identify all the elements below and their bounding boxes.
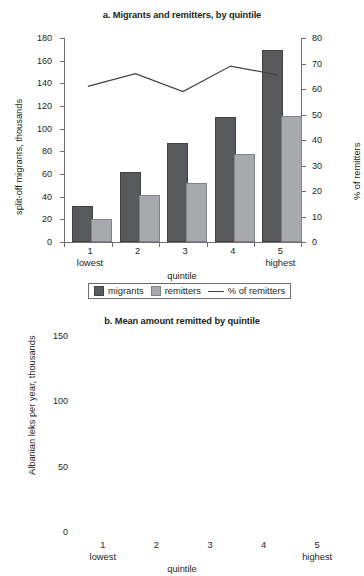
legend-label-migrants: migrants [108, 286, 144, 296]
panel-b-x-axis-label: quintile [0, 564, 364, 574]
panel-b-xcat-5: 5 [290, 540, 344, 550]
panel-a-ytick-180: 180 [22, 34, 52, 43]
bar-migrants-q2 [120, 172, 141, 242]
panel-a-tick-l-40 [60, 197, 64, 198]
bar-migrants-q4 [215, 117, 236, 243]
panel-a-tick-l-140 [60, 83, 64, 84]
panel-b-y-axis-label: Albanian leks per year, thousands [27, 335, 37, 475]
panel-a-ytick-80: 80 [22, 147, 52, 156]
panel-a-ytick-right-40: 40 [312, 136, 336, 145]
panel-a-ytick-right-70: 70 [312, 60, 336, 69]
panel-b-ytick-150: 150 [38, 332, 68, 341]
panel-a-tick-r-30 [302, 166, 306, 167]
legend-swatch-line-icon [208, 291, 224, 292]
panel-a-ytick-right-0: 0 [312, 238, 336, 247]
panel-a-tick-l-20 [60, 219, 64, 220]
panel-b-xcat-3: 3 [183, 540, 237, 550]
panel-a-title: a. Migrants and remitters, by quintile [0, 10, 364, 20]
panel-a-xcat-lowest: lowest [66, 258, 114, 268]
legend-swatch-migrants-icon [94, 286, 104, 296]
panel-a-legend: migrants remitters % of remitters [88, 283, 291, 299]
panel-b-xcat-lowest: lowest [76, 552, 130, 562]
legend-item-pct-remitters: % of remitters [208, 286, 285, 296]
legend-item-migrants: migrants [94, 286, 144, 296]
panel-b-ytick-100: 100 [38, 397, 68, 406]
panel-a-ytick-160: 160 [22, 57, 52, 66]
panel-b-title: b. Mean amount remitted by quintile [0, 316, 364, 326]
bar-migrants-q5 [262, 50, 283, 242]
panel-a-ytick-20: 20 [22, 215, 52, 224]
panel-a-ytick-100: 100 [22, 125, 52, 134]
panel-a-xcat-highest: highest [256, 258, 304, 268]
legend-label-remitters: remitters [165, 286, 201, 296]
panel-a-ytick-120: 120 [22, 102, 52, 111]
panel-a-x-axis-label: quintile [0, 271, 364, 281]
panel-a-ytick-40: 40 [22, 193, 52, 202]
panel-a-ytick-60: 60 [22, 170, 52, 179]
panel-a-tick-r-40 [302, 140, 306, 141]
legend-swatch-remitters-icon [151, 286, 161, 296]
panel-a-left-axis [64, 38, 65, 243]
panel-a-tick-r-50 [302, 115, 306, 116]
bar-remitters-q4 [234, 154, 255, 242]
panel-b-ytick-0: 0 [38, 528, 68, 537]
bar-remitters-q3 [186, 183, 207, 242]
panel-a-x-axis [64, 242, 302, 243]
bar-remitters-q2 [139, 195, 160, 242]
panel-a-tick-r-10 [302, 217, 306, 218]
panel-a-y-axis-label-right: % of remitters [352, 143, 362, 200]
panel-a-xtick-0 [64, 243, 65, 247]
panel-a-plot-area [64, 38, 302, 242]
panel-a-xcat-3: 3 [161, 246, 209, 256]
panel-a-tick-r-70 [302, 64, 306, 65]
panel-a-ytick-right-60: 60 [312, 85, 336, 94]
panel-a-tick-l-120 [60, 106, 64, 107]
panel-a-ytick-right-80: 80 [312, 34, 336, 43]
panel-b-xcat-4: 4 [237, 540, 291, 550]
panel-a-tick-l-60 [60, 174, 64, 175]
panel-a-xcat-4: 4 [209, 246, 257, 256]
chart-panel-a: a. Migrants and remitters, by quintile s… [0, 0, 364, 300]
panel-a-ytick-right-30: 30 [312, 162, 336, 171]
panel-b-xcat-highest: highest [290, 552, 344, 562]
chart-panel-b: b. Mean amount remitted by quintile Alba… [0, 300, 364, 576]
panel-a-ytick-140: 140 [22, 79, 52, 88]
panel-a-xcat-1: 1 [66, 246, 114, 256]
legend-label-pct-remitters: % of remitters [228, 286, 285, 296]
bar-remitters-q1 [91, 219, 112, 242]
panel-a-xcat-2: 2 [114, 246, 162, 256]
bar-migrants-q3 [167, 143, 188, 242]
panel-a-tick-r-0 [302, 242, 306, 243]
panel-a-tick-l-160 [60, 61, 64, 62]
panel-a-tick-r-20 [302, 191, 306, 192]
panel-a-ytick-right-10: 10 [312, 213, 336, 222]
panel-a-ytick-0: 0 [22, 238, 52, 247]
panel-a-ytick-right-20: 20 [312, 187, 336, 196]
panel-a-tick-l-180 [60, 38, 64, 39]
bar-remitters-q5 [281, 116, 302, 242]
panel-a-tick-l-80 [60, 151, 64, 152]
panel-b-xcat-2: 2 [130, 540, 184, 550]
legend-item-remitters: remitters [151, 286, 201, 296]
bar-migrants-q1 [72, 206, 93, 242]
panel-a-tick-r-60 [302, 89, 306, 90]
panel-a-xcat-5: 5 [256, 246, 304, 256]
panel-a-tick-r-80 [302, 38, 306, 39]
panel-a-ytick-right-50: 50 [312, 111, 336, 120]
panel-a-tick-l-100 [60, 129, 64, 130]
panel-b-ytick-50: 50 [38, 463, 68, 472]
panel-b-xcat-1: 1 [76, 540, 130, 550]
